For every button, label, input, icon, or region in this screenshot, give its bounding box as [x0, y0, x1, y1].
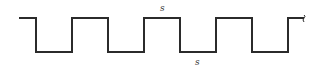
waveform: s s	[0, 0, 322, 68]
top-width-label: s	[160, 3, 165, 13]
square-wave-diagram: s s	[0, 0, 322, 68]
square-wave-line	[19, 18, 304, 52]
bottom-width-label: s	[195, 57, 200, 67]
break-squiggle-icon	[303, 15, 305, 22]
